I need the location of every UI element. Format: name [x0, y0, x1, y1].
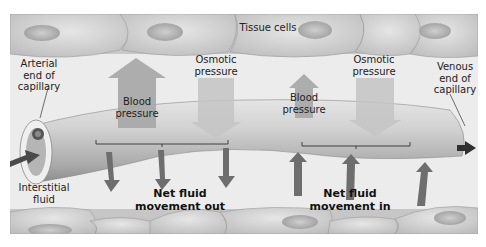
label-blood-pressure-arterial: Blood pressure [108, 96, 166, 119]
arterial-pointer-line [40, 88, 48, 118]
label-net-fluid-in: Net fluid movement in [305, 187, 395, 213]
top-tissue-cells [10, 14, 478, 58]
label-blood-pressure-venous: Blood pressure [275, 92, 333, 115]
bottom-tissue-cells [10, 206, 478, 234]
label-osmotic-pressure-venous: Osmotic pressure [344, 54, 404, 77]
capillary-exchange-diagram: Tissue cells Arterial end of capillary V… [10, 14, 478, 234]
label-venous-end: Venous end of capillary [428, 61, 478, 96]
diagram-artwork [10, 14, 478, 234]
label-interstitial-fluid: Interstitial fluid [14, 182, 74, 205]
label-arterial-end: Arterial end of capillary [12, 58, 66, 93]
label-net-fluid-out: Net fluid movement out [130, 187, 230, 213]
label-tissue-cells: Tissue cells [228, 22, 308, 34]
label-osmotic-pressure-arterial: Osmotic pressure [186, 54, 246, 77]
capillary-tube [20, 100, 464, 184]
